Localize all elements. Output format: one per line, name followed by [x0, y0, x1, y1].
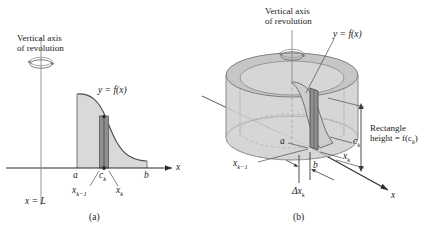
panel-b-x-axis-label: x — [391, 190, 395, 201]
panel-a-tick-ck-sub: k — [103, 175, 106, 182]
panel-a-axis-note-line1: Vertical axis — [17, 33, 62, 43]
panel-b-tick-ck: ck — [353, 136, 360, 148]
panel-b-rectangle-note-line2-end: ) — [415, 133, 418, 143]
x-axis-arrowhead — [380, 184, 388, 190]
panel-b-delta-label: Δxk — [292, 186, 305, 198]
panel-a-tick-xk: xk — [116, 185, 123, 197]
panel-a-vertical-axis-label: x = L — [25, 196, 46, 207]
panel-b-delta-label-sub: k — [302, 191, 305, 198]
delta-arrow-left-head — [294, 163, 299, 166]
panel-a-tick-xk-minus-1: xk−1 — [72, 185, 87, 197]
figure-container: Vertical axis of revolution y = f(x) x x… — [0, 0, 429, 235]
panel-b-axis-note-line1: Vertical axis — [265, 6, 310, 16]
x-axis-arrowhead — [165, 165, 172, 171]
panel-a-axis-note: Vertical axis of revolution — [17, 33, 64, 54]
panel-b-rectangle-note-line1: Rectangle — [370, 123, 406, 133]
panel-b-rectangle-note-line2: height = f(ck) — [370, 133, 418, 143]
panel-b-axis-note: Vertical axis of revolution — [265, 6, 312, 27]
panel-b-tick-xk-minus-1: xk−1 — [233, 158, 248, 170]
panel-a-curve-label: y = f(x) — [98, 85, 127, 96]
panel-b-tick-xk-minus-1-sub: k−1 — [237, 163, 247, 170]
panel-b-tick-xk-sub: k — [347, 156, 350, 163]
panel-b-rectangle-note: Rectangle height = f(ck) — [370, 123, 418, 146]
leader-xk — [109, 171, 118, 186]
delta-arrow-right-line — [313, 170, 334, 180]
panel-a-x-axis-label: x — [176, 162, 180, 173]
panel-b-tick-a: a — [280, 136, 285, 147]
panel-a-tick-a: a — [73, 170, 78, 181]
panel-a-tick-b: b — [144, 170, 149, 181]
panel-b-tick-b: b — [313, 160, 318, 171]
panel-b-caption: (b) — [293, 212, 304, 223]
panel-a-tick-xk-sub: k — [120, 190, 123, 197]
panel-b-tick-xk: xk — [343, 151, 350, 163]
panel-a-tick-ck: ck — [99, 170, 106, 182]
panel-b-axis-note-line2: of revolution — [265, 16, 312, 26]
panel-b-tick-ck-sub: k — [357, 141, 360, 148]
panel-a-axis-note-line2: of revolution — [17, 43, 64, 53]
panel-a-tick-xk-minus-1-sub: k−1 — [76, 190, 86, 197]
leader-xk-minus-1 — [90, 171, 99, 186]
panel-a-caption: (a) — [89, 212, 100, 223]
panel-b-rectangle-note-line2-text: height = f(c — [370, 133, 412, 143]
region-under-curve — [77, 94, 147, 168]
sample-point-top-dot — [102, 115, 105, 118]
panel-b-curve-label: y = f(x) — [333, 29, 362, 40]
panel-b-delta-label-base: Δx — [292, 186, 302, 196]
